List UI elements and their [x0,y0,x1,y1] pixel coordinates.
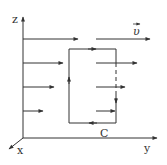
velocity-label: υ [133,24,140,38]
loop-label: C [100,127,108,140]
field-arrows-left [23,39,78,111]
z-axis-label: z [12,13,18,26]
field-arrows-right [96,39,150,111]
velocity-symbol: υ [133,25,140,38]
y-axis-label: y [143,142,151,155]
velocity-field-diagram: z y x υ C [0,0,167,165]
x-axis-label: x [17,144,24,157]
